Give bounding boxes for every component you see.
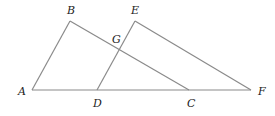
segment-ef [135, 21, 251, 90]
label-c: C [187, 97, 196, 110]
label-b: B [66, 4, 75, 17]
segment-ab [32, 21, 70, 90]
label-a: A [17, 85, 26, 98]
label-e: E [130, 4, 139, 17]
label-g: G [112, 33, 121, 46]
geometry-diagram: A B E G D C F [0, 0, 275, 116]
label-f: F [257, 85, 266, 98]
label-d: D [92, 97, 102, 110]
